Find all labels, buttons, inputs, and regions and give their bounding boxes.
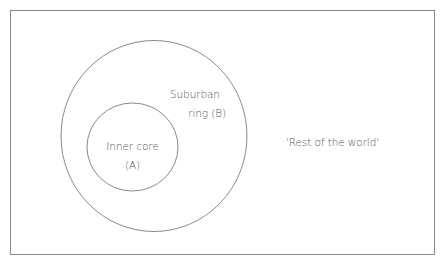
inner-core-label: Inner core (A) — [87, 137, 178, 175]
suburban-ring-label-line2: ring (B) — [160, 104, 226, 123]
rest-of-world-label: 'Rest of the world' — [286, 133, 379, 152]
suburban-ring-label-line1: Suburban — [160, 85, 226, 104]
inner-core-label-line1: Inner core — [87, 137, 178, 156]
nested-regions-diagram — [0, 0, 447, 269]
suburban-ring-circle — [61, 41, 247, 232]
suburban-ring-label: Suburban ring (B) — [160, 85, 226, 123]
inner-core-label-line2: (A) — [87, 156, 178, 175]
